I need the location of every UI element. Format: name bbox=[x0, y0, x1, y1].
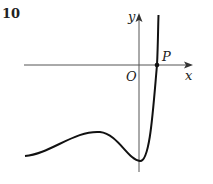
origin-label: O bbox=[126, 69, 137, 84]
point-p-label: P bbox=[161, 49, 171, 64]
graph: y x O P bbox=[0, 0, 213, 184]
point-p-marker bbox=[155, 63, 160, 68]
x-axis-label: x bbox=[185, 68, 193, 83]
function-curve bbox=[25, 15, 159, 161]
y-axis-label: y bbox=[127, 9, 136, 24]
